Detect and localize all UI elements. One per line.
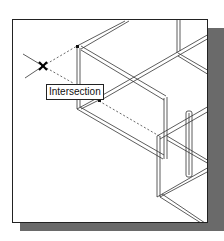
x-cross-icon (39, 62, 47, 70)
intersection-tooltip: Intersection (46, 84, 104, 100)
drawing-viewport[interactable] (12, 19, 208, 223)
wireframe-drawing (13, 20, 208, 223)
